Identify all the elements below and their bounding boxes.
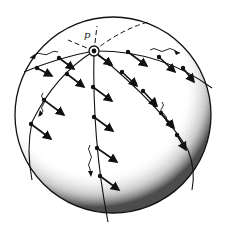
point-dot [29,122,33,126]
point-dot [35,66,39,70]
pole-label: p [84,29,91,40]
point-dot [95,146,99,150]
point-dot [133,82,137,86]
sphere [15,17,211,213]
point-dot [92,115,96,119]
point-dot [141,89,145,93]
point-dot [157,55,161,59]
point-dot [120,70,124,74]
point-dot [98,174,102,178]
point-dot [126,50,130,54]
pole-marker [89,46,99,56]
point-dot [65,72,69,76]
point-dot [91,85,95,89]
point-dot [175,133,179,137]
point-dot [181,66,185,70]
point-dot [57,56,61,60]
sphere-diagram: p [0,0,226,230]
point-dot [108,62,112,66]
point-dot [153,103,157,107]
